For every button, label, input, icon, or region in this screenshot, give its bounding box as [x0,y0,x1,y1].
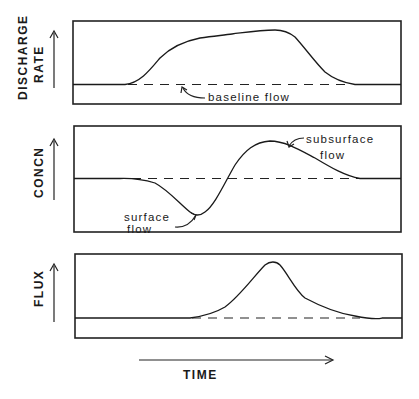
discharge-curve [73,30,401,85]
panel-flux-frame [75,254,402,338]
panel-discharge: DISCHARGE RATE baseline flow [16,14,401,104]
panel-flux: FLUX [32,254,402,338]
label-baseline-flow: baseline flow [208,91,290,103]
hydrograph-diagram: DISCHARGE RATE baseline flow CONCN surfa… [0,0,419,399]
xlabel-time: TIME [183,368,218,382]
ylabel-discharge: DISCHARGE [16,14,30,100]
ylabel-rate: RATE [32,45,46,83]
surface-pointer-arrow [175,215,196,227]
y-arrow-icon [50,264,58,322]
subsurface-pointer-arrow [289,138,304,146]
y-arrow-icon [50,139,58,200]
y-arrow-icon [50,31,58,88]
time-axis: TIME [139,356,333,382]
panel-concentration: CONCN surface flow subsurface flow [32,126,401,235]
flux-curve [75,262,402,319]
ylabel-concn: CONCN [32,147,46,199]
ylabel-flux: FLUX [32,270,46,307]
label-surface: surface [124,211,170,223]
label-subsurface: subsurface [306,133,374,145]
label-subsurface-flow: flow [320,149,345,161]
label-surface-flow: flow [127,223,152,235]
concentration-curve [74,141,401,215]
